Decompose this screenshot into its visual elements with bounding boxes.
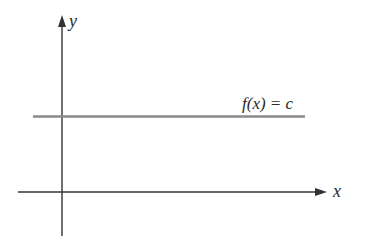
constant-function-diagram: y x f(x) = c — [0, 0, 368, 252]
y-axis — [58, 15, 66, 236]
x-axis-label: x — [332, 181, 341, 201]
y-axis-label: y — [67, 11, 77, 31]
function-label: f(x) = c — [242, 94, 294, 113]
y-axis-arrow-icon — [58, 15, 66, 27]
x-axis-arrow-icon — [315, 188, 327, 196]
x-axis — [18, 188, 327, 196]
